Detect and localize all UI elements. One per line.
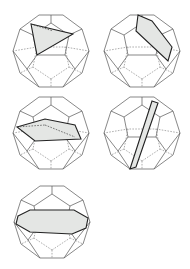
cross-section-hexagon (16, 210, 88, 234)
dodecahedron-panel-c (13, 97, 89, 169)
cross-section-quadrilateral (136, 15, 172, 61)
cross-section-triangle (31, 24, 73, 55)
cross-section-pentagon (17, 119, 81, 141)
dodecahedron-panel-a (13, 15, 89, 87)
dodecahedron-panel-d (104, 97, 180, 169)
dodecahedron-panel-b (104, 15, 180, 87)
dodecahedra-diagram (0, 0, 190, 269)
dodecahedron-panel-e (14, 186, 90, 258)
cross-section-thin-quadrilateral (130, 101, 158, 169)
